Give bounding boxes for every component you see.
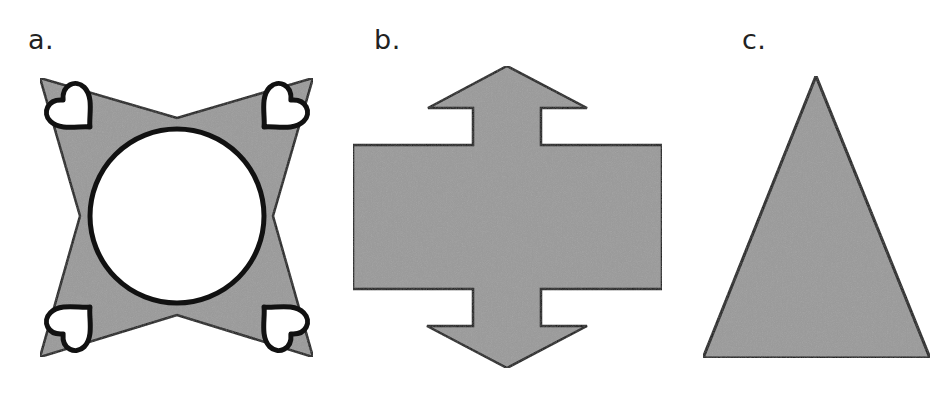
triangle-shape	[703, 76, 930, 358]
panel-a-figure	[40, 78, 313, 357]
panel-b-figure	[353, 66, 662, 368]
rectangle-double-arrow-shape	[353, 66, 662, 368]
center-circle	[90, 129, 264, 303]
figure-canvas	[0, 0, 952, 393]
panel-c-figure	[703, 76, 930, 358]
